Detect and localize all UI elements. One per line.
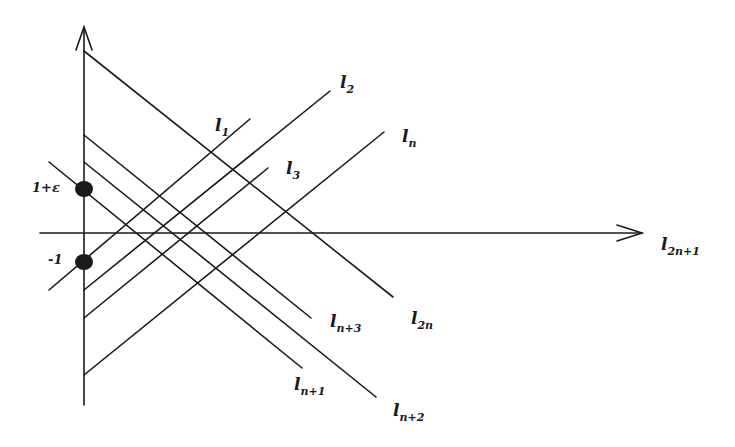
- point-minus-1: [75, 254, 93, 270]
- label-l3: l3: [286, 160, 300, 181]
- label-ln+2-sub: n+2: [399, 411, 424, 424]
- label-ln+3-sub: n+3: [336, 322, 361, 335]
- label-ln+1-sub: n+1: [300, 385, 325, 398]
- label-l1: l1: [215, 117, 229, 138]
- label-l2n: l2n: [411, 310, 433, 331]
- label-l2n+1: l2n+1: [661, 236, 700, 257]
- label-l2n+1-sub: 2n+1: [667, 245, 700, 258]
- line-ln+2: [84, 162, 376, 397]
- label-l2: l2: [340, 74, 354, 95]
- label-l2-sub: 2: [346, 83, 354, 96]
- point-1-plus-epsilon: [75, 181, 93, 197]
- label-l1-sub: 1: [221, 126, 229, 139]
- label-l3-sub: 3: [292, 169, 300, 182]
- label-ln+1: ln+1: [294, 376, 325, 397]
- label-minus-1: -1: [48, 252, 62, 267]
- line-l3: [84, 168, 268, 318]
- label-ln+2: ln+2: [393, 402, 424, 423]
- label-ln: ln: [402, 128, 416, 149]
- label-ln-sub: n: [408, 137, 416, 150]
- line-arrangement-diagram: [0, 0, 735, 447]
- label-ln+3: ln+3: [330, 313, 361, 334]
- label-1-plus-epsilon: 1+ε: [32, 180, 60, 195]
- label-l2n-sub: 2n: [417, 319, 433, 332]
